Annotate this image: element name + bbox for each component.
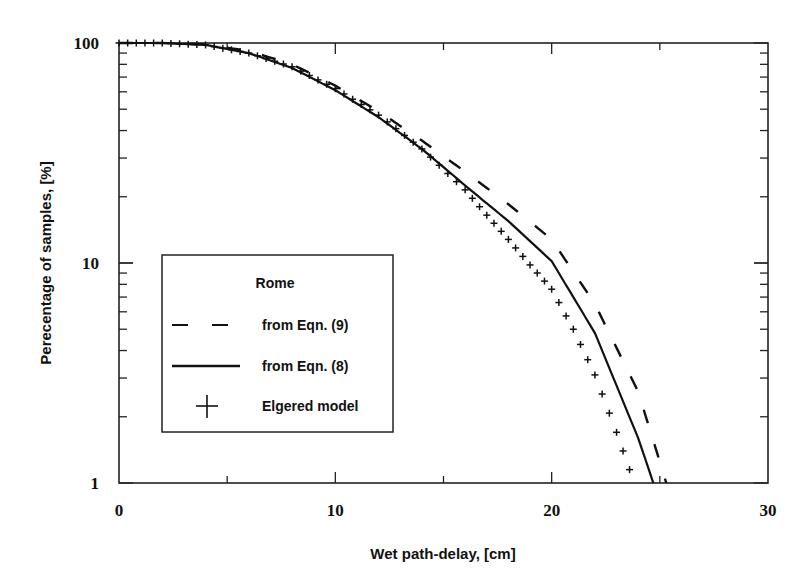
x-axis-label: Wet path-delay, [cm] [370, 545, 515, 562]
x-tick-label: 20 [543, 501, 560, 520]
y-tick-label: 1 [91, 474, 100, 493]
y-tick-label: 100 [74, 34, 100, 53]
y-tick-label: 10 [82, 254, 99, 273]
x-tick-label: 30 [760, 501, 777, 520]
y-axis-label: Perecentage of samples, [%] [37, 161, 54, 364]
legend-label-elgered: Elgered model [262, 398, 358, 414]
legend-label-eqn8: from Eqn. (8) [262, 358, 348, 374]
chart: 0102030 110100 Wet path-delay, [cm] Pere… [0, 0, 804, 584]
x-tick-label: 0 [115, 501, 124, 520]
legend-label-eqn9: from Eqn. (9) [262, 317, 348, 333]
x-tick-label: 10 [327, 501, 344, 520]
legend-title: Rome [256, 275, 295, 291]
legend: Rome from Eqn. (9) from Eqn. (8) Elgered… [162, 255, 393, 432]
